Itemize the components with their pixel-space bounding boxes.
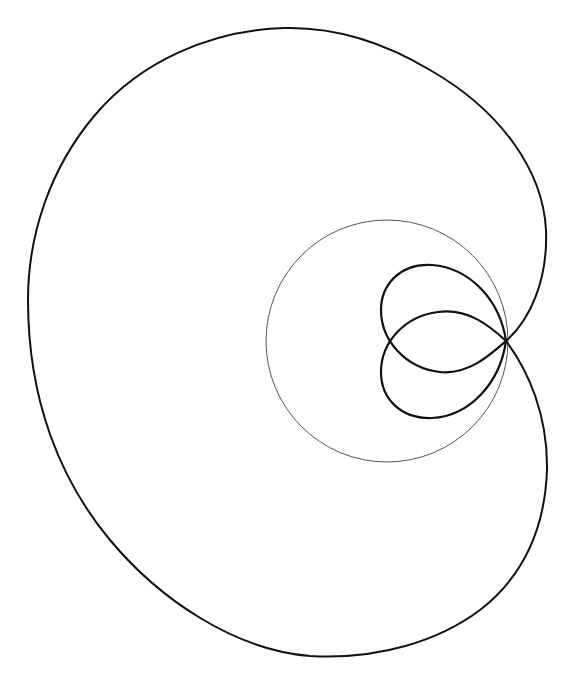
curve-figure	[0, 0, 574, 680]
reference-circle	[266, 220, 508, 462]
outer-loop-curve	[28, 28, 547, 657]
upper-inner-loop-curve	[381, 265, 506, 372]
lower-inner-loop-curve	[381, 311, 506, 418]
figure-canvas	[0, 0, 574, 680]
node-point	[506, 341, 507, 342]
